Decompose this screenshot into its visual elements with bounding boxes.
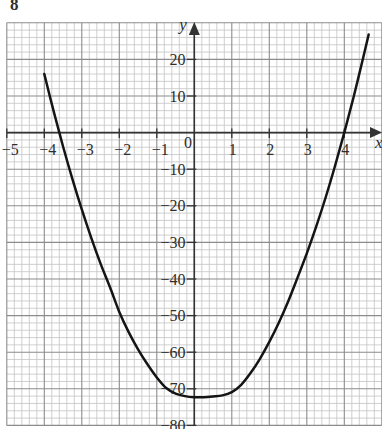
question-number: 8 xyxy=(10,0,19,14)
graph: −5−4−3−2−112342010−10−20−30−40−50−60−70−… xyxy=(0,0,382,429)
y-tick-label: −20 xyxy=(160,197,185,214)
y-axis-label: y xyxy=(177,15,187,34)
y-tick-label: −80 xyxy=(160,417,185,429)
x-tick-label: −3 xyxy=(77,141,94,158)
axes xyxy=(7,22,382,425)
y-tick-label: −50 xyxy=(160,307,185,324)
x-tick-label: −5 xyxy=(2,141,19,158)
x-tick-label: −4 xyxy=(39,141,56,158)
origin-label: 0 xyxy=(184,134,192,151)
y-tick-label: −10 xyxy=(160,161,185,178)
x-tick-label: 1 xyxy=(229,141,237,158)
y-tick-label: −40 xyxy=(160,271,185,288)
y-tick-label: −30 xyxy=(160,234,185,251)
x-tick-label: 3 xyxy=(304,141,312,158)
x-axis-label: x xyxy=(374,133,382,152)
y-tick-label: 20 xyxy=(170,51,186,68)
y-axis-arrow-icon xyxy=(189,22,200,35)
x-tick-label: −1 xyxy=(152,141,169,158)
worksheet-figure: −5−4−3−2−112342010−10−20−30−40−50−60−70−… xyxy=(0,0,382,429)
x-tick-label: 2 xyxy=(266,141,274,158)
y-tick-label: −60 xyxy=(160,344,185,361)
y-tick-label: 10 xyxy=(170,88,186,105)
x-tick-label: −2 xyxy=(114,141,131,158)
